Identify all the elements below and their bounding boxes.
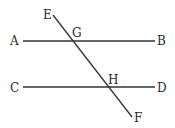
label-g: G bbox=[72, 26, 82, 40]
label-f: F bbox=[134, 111, 142, 125]
label-h: H bbox=[108, 73, 118, 87]
label-c: C bbox=[10, 81, 19, 95]
diagram-canvas: A B C D E F G H bbox=[0, 0, 175, 128]
label-b: B bbox=[157, 34, 166, 48]
label-a: A bbox=[9, 34, 19, 48]
label-e: E bbox=[43, 8, 52, 22]
label-d: D bbox=[157, 81, 167, 95]
line-ef bbox=[53, 15, 132, 117]
